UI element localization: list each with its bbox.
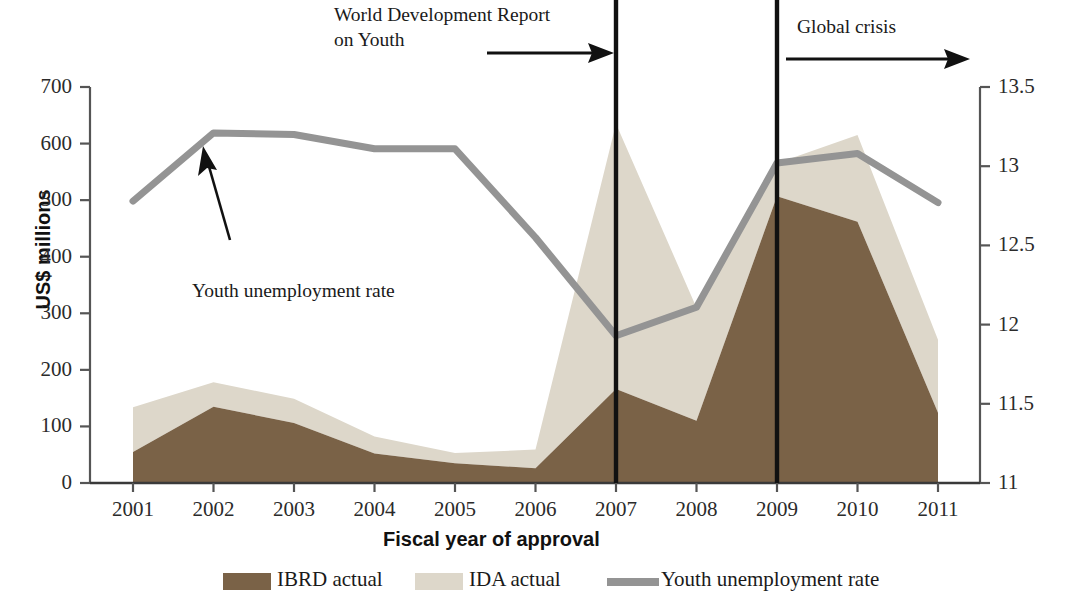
annotation-wdr-youth-line1: World Development Report [334, 2, 550, 27]
arrow-youth-rate-callout [198, 146, 230, 240]
arrow-global-crisis [786, 49, 970, 69]
axis-bottom-tick-2004: 2004 [342, 497, 408, 522]
axis-right [980, 87, 990, 483]
axis-bottom-tick-2003: 2003 [261, 497, 327, 522]
axis-bottom-tick-2007: 2007 [583, 497, 649, 522]
axis-bottom-tick-2002: 2002 [181, 497, 247, 522]
arrow-wdr-youth [487, 43, 614, 63]
legend-swatch-1 [223, 573, 271, 590]
axis-title-x: Fiscal year of approval [383, 528, 600, 551]
annotation-youth-rate-callout: Youth unemployment rate [192, 278, 395, 303]
axis-bottom-tick-2005: 2005 [422, 497, 488, 522]
chart-canvas: World Development Report on Youth Global… [0, 0, 1089, 603]
legend-swatch-2 [415, 573, 463, 590]
axis-bottom-tick-2006: 2006 [503, 497, 569, 522]
axis-left [80, 87, 90, 483]
axis-right-tick-12: 12 [998, 312, 1054, 337]
axis-bottom [90, 483, 980, 492]
axis-right-tick-11: 11 [998, 470, 1054, 495]
axis-left-tick-400: 400 [0, 244, 72, 269]
annotation-wdr-youth-line2: on Youth [334, 27, 404, 52]
axis-right-tick-13.5: 13.5 [998, 74, 1054, 99]
axis-bottom-tick-2011: 2011 [905, 497, 971, 522]
legend-label-2: IDA actual [469, 567, 561, 592]
axis-left-tick-100: 100 [0, 413, 72, 438]
axis-right-tick-11.5: 11.5 [998, 391, 1054, 416]
axis-bottom-tick-2010: 2010 [825, 497, 891, 522]
axis-bottom-tick-2008: 2008 [664, 497, 730, 522]
legend-swatch-3 [607, 578, 659, 586]
axis-left-tick-600: 600 [0, 131, 72, 156]
legend-label-3: Youth unemployment rate [661, 567, 879, 592]
axis-left-tick-700: 700 [0, 74, 72, 99]
axis-bottom-tick-2009: 2009 [744, 497, 810, 522]
axis-right-tick-13: 13 [998, 153, 1054, 178]
axis-left-tick-200: 200 [0, 357, 72, 382]
axis-left-tick-300: 300 [0, 300, 72, 325]
axis-right-tick-12.5: 12.5 [998, 232, 1054, 257]
axis-bottom-tick-2001: 2001 [100, 497, 166, 522]
axis-left-tick-500: 500 [0, 187, 72, 212]
axis-left-tick-0: 0 [0, 470, 72, 495]
annotation-global-crisis: Global crisis [797, 14, 896, 39]
legend-label-1: IBRD actual [277, 567, 383, 592]
